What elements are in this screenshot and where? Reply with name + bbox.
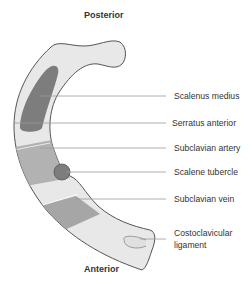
label-costoclavicular: Costoclavicular: [174, 228, 232, 238]
label-ligament: ligament: [174, 240, 206, 250]
label-subclavian-artery: Subclavian artery: [174, 143, 240, 153]
label-serratus-anterior: Serratus anterior: [172, 118, 236, 128]
label-subclavian-vein: Subclavian vein: [174, 194, 234, 204]
label-scalenus-medius: Scalenus medius: [174, 91, 239, 101]
label-scalene-tubercle: Scalene tubercle: [174, 167, 238, 177]
